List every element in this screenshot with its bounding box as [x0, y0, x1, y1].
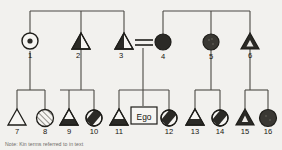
ego-label: Ego — [137, 112, 152, 122]
individual-3[interactable]: 3 — [113, 31, 133, 60]
descent-5 — [195, 50, 220, 110]
individual-3-label: 3 — [119, 51, 123, 60]
sibship-top-left-lines — [30, 11, 124, 33]
individual-5[interactable]: 5 — [203, 34, 219, 61]
individual-15[interactable]: 15 — [236, 109, 254, 136]
individual-9[interactable]: 9 — [58, 109, 80, 136]
individual-8-label: 8 — [43, 127, 47, 136]
individual-2-label: 2 — [76, 51, 80, 60]
individual-7[interactable]: 7 — [8, 109, 26, 136]
individual-13[interactable]: 13 — [184, 109, 206, 136]
individual-10[interactable]: 10 — [86, 108, 102, 136]
individual-7-label: 7 — [15, 127, 19, 136]
individual-5-label: 5 — [209, 52, 213, 61]
individual-6-label: 6 — [248, 51, 252, 60]
individual-4[interactable]: 4 — [155, 34, 171, 61]
individual-ego[interactable]: Ego — [131, 107, 157, 124]
individual-16-label: 16 — [264, 127, 272, 136]
connector-lines — [17, 11, 268, 110]
individual-12[interactable]: 12 — [161, 108, 177, 136]
individual-10-label: 10 — [90, 127, 98, 136]
individual-11-label: 11 — [115, 127, 123, 136]
marriage-3-4 — [135, 40, 153, 45]
individual-12-label: 12 — [165, 127, 173, 136]
individual-14-label: 14 — [216, 127, 224, 136]
individual-13-label: 13 — [191, 127, 199, 136]
individual-1-label: 1 — [28, 51, 32, 60]
individual-14[interactable]: 14 — [212, 108, 228, 136]
individual-2[interactable]: 2 — [70, 31, 90, 60]
individual-4-label: 4 — [161, 52, 165, 61]
pedigree-canvas: 1 2 3 4 5 — [0, 0, 282, 150]
individual-16[interactable]: 16 — [260, 110, 277, 137]
individual-1[interactable]: 1 — [22, 33, 38, 60]
pedigree-diagram: 1 2 3 4 5 — [0, 0, 282, 150]
individual-15-label: 15 — [241, 127, 249, 136]
individual-8[interactable]: 8 — [37, 110, 54, 137]
individual-11[interactable]: 11 — [108, 109, 130, 136]
figure-note: Note: Kin terms referred to in text — [5, 141, 83, 147]
individual-9-label: 9 — [67, 127, 71, 136]
individual-6[interactable]: 6 — [241, 33, 259, 60]
sibship-top-right-lines — [163, 11, 250, 34]
